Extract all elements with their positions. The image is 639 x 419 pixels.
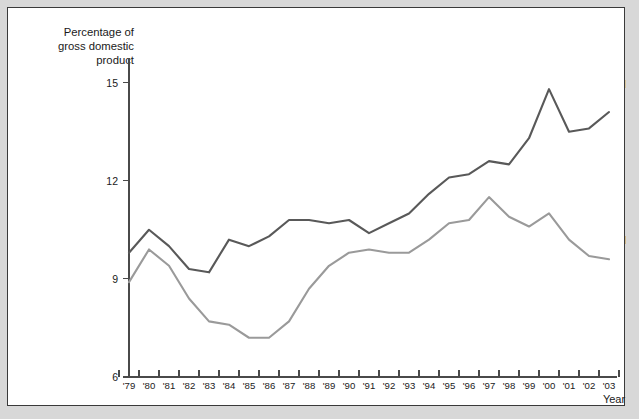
series-line-exports xyxy=(129,197,609,338)
y-tick-label: 6 xyxy=(112,371,118,383)
x-tick-label: '01 xyxy=(563,380,576,391)
series-line-imports xyxy=(129,89,609,272)
x-tick-label: '84 xyxy=(223,380,236,391)
chart-svg: Percentage ofgross domesticproduct691215… xyxy=(8,8,626,407)
x-tick-group: '79'80'81'82'83'84'85'86'87'88'89'90'91'… xyxy=(119,370,619,391)
x-tick-label: '85 xyxy=(243,380,256,391)
y-tick-label: 15 xyxy=(106,77,118,89)
x-tick-label: '83 xyxy=(203,380,216,391)
y-tick-group: 691215 xyxy=(106,77,129,383)
x-tick-label: '80 xyxy=(143,380,156,391)
y-axis-caption: Percentage ofgross domesticproduct xyxy=(58,26,135,66)
series-label-imports: Imports xyxy=(625,78,626,90)
x-tick-label: '88 xyxy=(303,380,316,391)
x-tick-label: '87 xyxy=(283,380,296,391)
x-tick-label: '03 xyxy=(603,380,616,391)
x-tick-label: '81 xyxy=(163,380,176,391)
x-tick-label: '93 xyxy=(403,380,416,391)
x-tick-label: '94 xyxy=(423,380,436,391)
x-tick-label: '96 xyxy=(463,380,476,391)
x-tick-label: '86 xyxy=(263,380,276,391)
x-tick-label: '90 xyxy=(343,380,356,391)
x-tick-label: '97 xyxy=(483,380,496,391)
y-axis-caption-line: gross domestic xyxy=(58,40,134,52)
series-label-exports: Exports xyxy=(625,234,626,246)
x-tick-label: '92 xyxy=(383,380,396,391)
x-tick-label: '99 xyxy=(523,380,536,391)
x-tick-label: '82 xyxy=(183,380,196,391)
chart-figure: Percentage ofgross domesticproduct691215… xyxy=(7,7,625,406)
x-tick-label: '89 xyxy=(323,380,336,391)
x-tick-label: '02 xyxy=(583,380,596,391)
x-tick-label: '79 xyxy=(123,380,136,391)
x-tick-label: '91 xyxy=(363,380,376,391)
y-tick-label: 9 xyxy=(112,273,118,285)
line-chart-plot: Percentage ofgross domesticproduct691215… xyxy=(8,8,624,405)
y-tick-label: 12 xyxy=(106,175,118,187)
x-axis-title: Year xyxy=(603,393,626,405)
x-tick-label: '95 xyxy=(443,380,456,391)
x-tick-label: '00 xyxy=(543,380,556,391)
x-tick-label: '98 xyxy=(503,380,516,391)
y-axis-caption-line: Percentage of xyxy=(64,26,135,38)
